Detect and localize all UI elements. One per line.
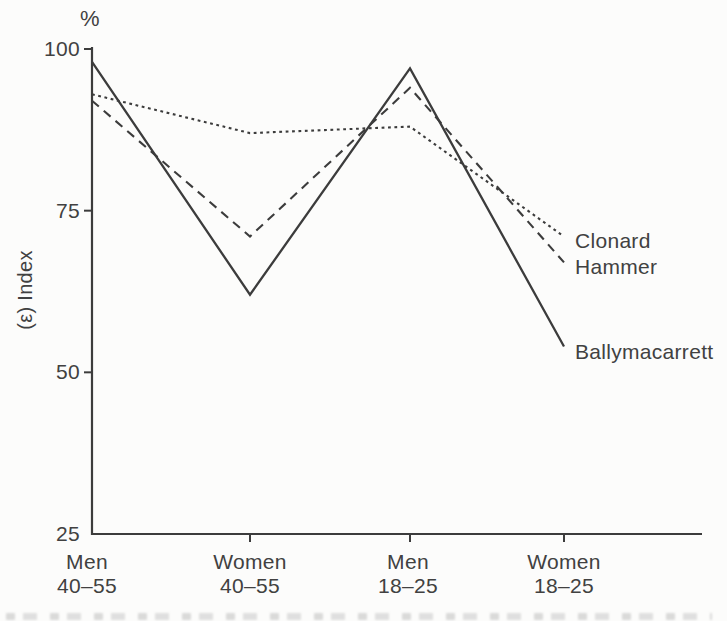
x-category-group-label: Women [499,550,629,574]
x-category-age-label: 18–25 [343,574,473,598]
series-label-ballymacarrett: Ballymacarrett [575,340,713,363]
x-category-men-18-25: Men 18–25 [343,550,473,598]
series-line-ballymacarrett [92,62,564,347]
x-category-group-label: Women [185,550,315,574]
y-axis-unit-label: % [74,7,106,30]
series-line-hammer [92,88,564,263]
x-category-age-label: 18–25 [499,574,629,598]
y-tick-label-100: 100 [28,38,80,60]
series-label-hammer: Hammer [575,255,657,278]
y-tick-label-25: 25 [28,523,80,545]
y-axis-title: (ε) Index [14,220,36,360]
axes [91,47,702,535]
x-category-women-40-55: Women 40–55 [185,550,315,598]
x-category-age-label: 40–55 [22,574,152,598]
x-category-group-label: Men [22,550,152,574]
cropped-caption-fragment [6,613,712,620]
y-tick-label-75: 75 [28,200,80,222]
x-category-women-18-25: Women 18–25 [499,550,629,598]
y-tick-label-50: 50 [28,361,80,383]
chart-canvas [0,0,727,621]
x-category-age-label: 40–55 [185,574,315,598]
axis-ticks [84,49,564,542]
series-label-clonard: Clonard [575,229,651,252]
x-category-group-label: Men [343,550,473,574]
x-category-men-40-55: Men 40–55 [22,550,152,598]
line-chart-figure: % 100 75 50 25 (ε) Index Men 40–55 Women… [0,0,727,621]
series-lines [92,62,564,347]
